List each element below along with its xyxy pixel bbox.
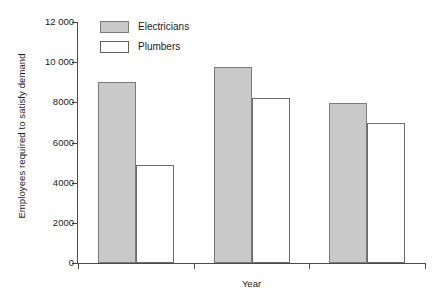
legend-item-plumbers: Plumbers [100, 38, 230, 56]
x-axis-line [77, 263, 425, 264]
x-tick-mark [425, 263, 426, 269]
legend-item-electricians: Electricians [100, 18, 230, 36]
y-tick-label: 8000 [53, 95, 74, 109]
y-tick-label: 0 [69, 256, 74, 270]
legend-label: Electricians [138, 21, 189, 33]
bar-plumbers-1999 [252, 98, 290, 263]
y-tick-label: 6000 [53, 136, 74, 150]
bar-plumbers-2001 [367, 123, 405, 263]
bar-electricians-1997 [98, 82, 136, 263]
bar-electricians-1999 [214, 67, 252, 263]
bar-electricians-2001 [329, 103, 367, 263]
plot-area: 0200040006000800010 00012 000 [78, 22, 425, 263]
filled-gray-swatch [100, 21, 129, 33]
x-tick-mark [194, 263, 195, 269]
outline-white-swatch [100, 41, 129, 53]
chart-legend: ElectriciansPlumbers [100, 18, 230, 58]
x-axis-title: Year [78, 277, 425, 291]
y-axis-title: Employees required to satisfy demand [14, 4, 30, 268]
y-tick-label: 10 000 [45, 55, 74, 69]
bar-plumbers-1997 [136, 165, 174, 263]
bar-chart-figure: Employees required to satisfy demand 020… [0, 0, 442, 304]
x-tick-mark [78, 263, 79, 269]
y-tick-label: 2000 [53, 216, 74, 230]
y-tick-label: 12 000 [45, 15, 74, 29]
x-tick-mark [309, 263, 310, 269]
y-tick-label: 4000 [53, 176, 74, 190]
legend-label: Plumbers [138, 41, 180, 53]
